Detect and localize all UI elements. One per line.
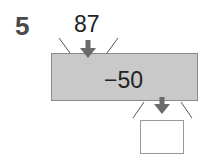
- input-arrow-icon: [80, 40, 96, 58]
- answer-box[interactable]: [140, 120, 184, 154]
- output-arrow-icon: [154, 97, 170, 114]
